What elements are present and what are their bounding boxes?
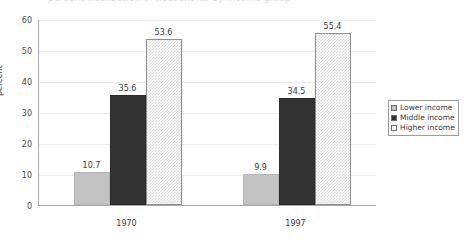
legend-label: Middle income [400,113,455,123]
bar-middle-income-1970[interactable] [110,95,146,205]
y-tick-label: 0 [27,202,32,211]
y-tick-label: 50 [22,47,32,56]
bar-lower-income-1970[interactable] [74,172,110,205]
bar-higher-income-1997[interactable] [315,33,351,205]
legend-item[interactable]: Higher income [391,123,455,133]
legend-swatch-icon [391,125,397,131]
y-tick-label: 20 [22,140,32,149]
y-tick-label: 40 [22,78,32,87]
legend-item[interactable]: Middle income [391,113,455,123]
bar-group: 10.735.653.6 [74,20,182,205]
bar-group: 9.934.555.4 [243,20,351,205]
bar-higher-income-1970[interactable] [146,39,182,205]
data-label: 34.5 [288,87,306,96]
bar-lower-income-1997[interactable] [243,174,279,205]
y-tick-label: 10 [22,171,32,180]
x-tick-label: 1997 [285,219,305,228]
data-label: 9.9 [254,163,267,172]
legend-item[interactable]: Lower income [391,103,455,113]
legend-label: Higher income [400,123,455,133]
y-tick-label: 30 [22,109,32,118]
x-tick-label: 1970 [116,219,136,228]
data-label: 35.6 [119,84,137,93]
data-label: 53.6 [155,28,173,37]
legend-label: Lower income [400,103,452,113]
y-tick-label: 60 [22,16,32,25]
data-label: 10.7 [83,161,101,170]
bar-middle-income-1997[interactable] [279,98,315,205]
y-axis-tick-labels: 0102030405060 [0,0,38,243]
legend: Lower incomeMiddle incomeHigher income [388,100,459,136]
legend-swatch-icon [391,115,397,121]
legend-swatch-icon [391,105,397,111]
data-label: 55.4 [324,22,342,31]
plot-area: 10.735.653.69.934.555.4 [38,20,376,206]
bar-chart: percent 0102030405060 10.735.653.69.934.… [0,0,472,243]
